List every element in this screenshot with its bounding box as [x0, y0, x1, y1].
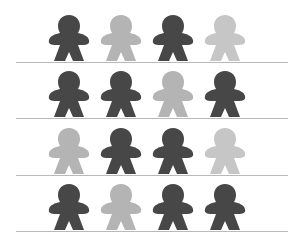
shelf-line: [16, 62, 288, 63]
shelf-line: [16, 231, 288, 232]
meeple-icon: [152, 127, 194, 175]
shelf-line: [16, 175, 288, 176]
meeple-icon: [152, 183, 194, 231]
meeple-icon: [100, 183, 142, 231]
meeple-icon: [204, 70, 246, 118]
meeple-icon: [204, 127, 246, 175]
meeple-icon: [152, 70, 194, 118]
meeple-icon: [204, 183, 246, 231]
meeple-icon: [48, 127, 90, 175]
meeple-icon: [100, 127, 142, 175]
meeple-icon: [152, 14, 194, 62]
meeple-row: [16, 126, 288, 176]
meeple-icon: [204, 14, 246, 62]
meeple-row: [16, 69, 288, 119]
meeple-icon: [48, 14, 90, 62]
meeple-icon: [48, 70, 90, 118]
meeple-icon: [100, 70, 142, 118]
shelf-line: [16, 118, 288, 119]
meeple-row: [16, 182, 288, 232]
meeple-icon: [100, 14, 142, 62]
meeple-icon: [48, 183, 90, 231]
meeple-row: [16, 13, 288, 63]
